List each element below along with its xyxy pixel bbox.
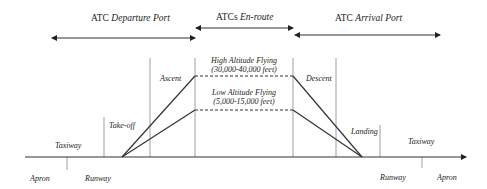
header-italic: Departure Port — [111, 13, 170, 23]
header-prefix: ATC — [335, 13, 355, 23]
header-prefix: ATCs — [216, 12, 240, 22]
runway-right-label: Runway — [380, 173, 406, 182]
high-altitude-range: (30,000-40,000 feet) — [211, 65, 277, 74]
low-altitude-range: (5,000-15,000 feet) — [212, 97, 276, 106]
high-altitude-title: High Altitude Flying — [211, 56, 277, 65]
taxiway-right-label: Taxiway — [408, 137, 434, 146]
enroute-header: ATCs En-route — [216, 12, 273, 22]
landing-label: Landing — [351, 127, 378, 136]
header-italic: En-route — [240, 12, 273, 22]
apron-right-label: Apron — [437, 173, 457, 182]
takeoff-label: Take-off — [109, 121, 135, 130]
apron-left-label: Apron — [30, 174, 50, 183]
departure-port-header: ATC Departure Port — [91, 13, 170, 23]
ascent-label: Ascent — [160, 74, 181, 83]
high-altitude-label: High Altitude Flying (30,000-40,000 feet… — [211, 56, 277, 74]
header-prefix: ATC — [91, 13, 111, 23]
low-altitude-label: Low Altitude Flying (5,000-15,000 feet) — [212, 88, 276, 106]
descent-label: Descent — [306, 74, 332, 83]
taxiway-left-label: Taxiway — [55, 141, 81, 150]
low-altitude-title: Low Altitude Flying — [212, 88, 276, 97]
arrival-port-header: ATC Arrival Port — [335, 13, 402, 23]
runway-left-label: Runway — [85, 174, 111, 183]
header-italic: Arrival Port — [355, 13, 402, 23]
